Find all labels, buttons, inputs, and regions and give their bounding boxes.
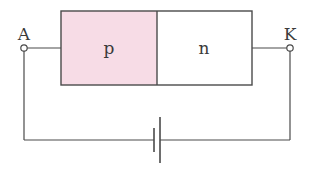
cathode-terminal-icon bbox=[287, 45, 293, 51]
anode-label: A bbox=[17, 24, 31, 44]
pn-junction-diagram: p n A K bbox=[0, 0, 313, 174]
anode-terminal-icon bbox=[21, 45, 27, 51]
cathode-label: K bbox=[284, 24, 297, 44]
n-region-label: n bbox=[199, 38, 210, 58]
battery-icon bbox=[154, 117, 160, 163]
p-region-label: p bbox=[104, 38, 115, 58]
